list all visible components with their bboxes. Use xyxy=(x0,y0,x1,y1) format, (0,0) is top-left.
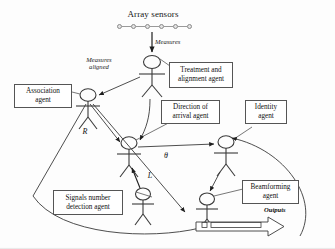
agent-box-beamforming[interactable]: Beamforming agent xyxy=(242,180,299,204)
edge-measures-aligned xyxy=(99,77,140,95)
actor-treatment-agent[interactable] xyxy=(139,56,165,98)
actor-association-agent[interactable] xyxy=(76,89,100,129)
actor-doa-agent[interactable] xyxy=(117,137,141,177)
agent-box-identity[interactable]: Identity agent xyxy=(245,100,287,124)
diagram-canvas: Array sensors Measures Measures aligned … xyxy=(0,0,335,249)
edge-label-outputs: Outputs xyxy=(264,206,306,213)
actor-signals-agent[interactable] xyxy=(132,188,154,225)
edge-label-measures: Measures xyxy=(155,38,201,45)
agent-box-signals[interactable]: Signals number detection agent xyxy=(53,190,123,215)
sensor-link xyxy=(178,26,187,27)
array-sensors-title: Array sensors xyxy=(103,10,203,20)
output-result-glyphs xyxy=(202,223,261,228)
array-sensors-row xyxy=(117,24,192,29)
edge-label-signal-count: L xyxy=(145,172,155,181)
edge-identity-to-beamforming xyxy=(210,172,220,191)
edge-label-measures-aligned: Measures aligned xyxy=(72,56,126,70)
edge-label-correlation-r: R xyxy=(79,128,91,137)
edge-doa-to-identity xyxy=(138,144,214,147)
agent-box-doa[interactable]: Direction of arrival agent xyxy=(161,100,220,124)
edge-label-theta: θ xyxy=(160,152,172,161)
actor-identity-agent[interactable] xyxy=(214,136,238,176)
agent-box-association[interactable]: Association agent xyxy=(14,84,72,108)
agent-box-treatment[interactable]: Treatment and alignment agent xyxy=(169,62,233,88)
sensor-link xyxy=(164,26,173,27)
sensor-dot xyxy=(187,24,192,29)
sensor-link xyxy=(150,26,159,27)
sensor-link xyxy=(136,26,145,27)
edge-signal-count-L xyxy=(132,168,140,188)
sensor-link xyxy=(122,26,131,27)
